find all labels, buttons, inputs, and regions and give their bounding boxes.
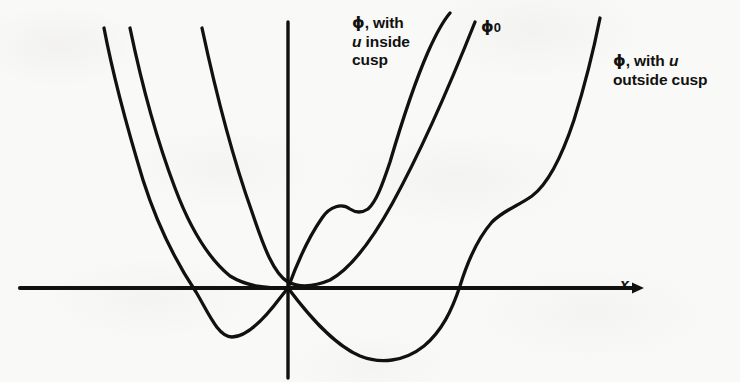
- curve-phi0: [202, 22, 475, 286]
- curve-left-branch-outer: [104, 28, 288, 337]
- label-inside-line1-rest: with: [369, 14, 404, 31]
- figure-container: ϕ, with u inside cusp ϕ0 ϕ, with u outsi…: [0, 0, 740, 382]
- label-inside-line2-rest: inside: [361, 33, 409, 50]
- x-axis-arrowhead: [632, 283, 644, 294]
- label-phi-outside-cusp: ϕ, with u outside cusp: [613, 52, 707, 89]
- label-inside-line2-italic: u: [352, 33, 361, 50]
- phi-symbol-inside: ϕ: [352, 13, 365, 32]
- curve-phi-outside-cusp: [288, 18, 600, 361]
- phi-symbol-outside: ϕ: [613, 51, 626, 70]
- label-phi-inside-cusp: ϕ, with u inside cusp: [352, 14, 410, 69]
- label-outside-line1-rest: with: [630, 52, 669, 69]
- x-axis-label: x: [620, 276, 629, 295]
- label-outside-line1-italic: u: [669, 52, 678, 69]
- phi0-subscript: 0: [494, 20, 501, 35]
- label-phi0: ϕ0: [481, 18, 501, 37]
- label-outside-line2: outside cusp: [613, 71, 707, 88]
- phi-symbol-zero: ϕ: [481, 17, 494, 36]
- label-inside-line3: cusp: [352, 51, 388, 68]
